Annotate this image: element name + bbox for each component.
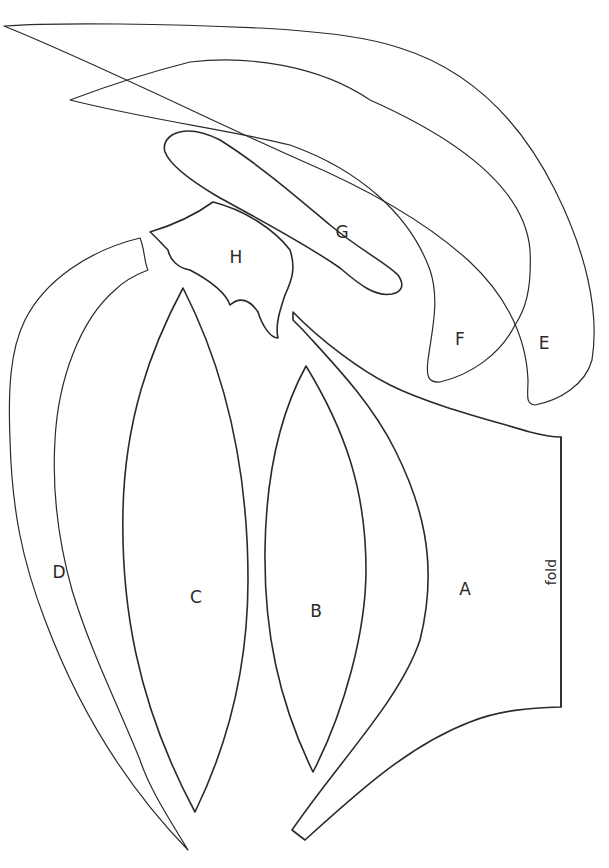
- pattern-piece-h: [150, 202, 293, 338]
- pattern-piece-e: [4, 24, 594, 405]
- piece-label-h: H: [230, 247, 243, 267]
- piece-d-outline: [9, 238, 188, 850]
- piece-g-outline: [164, 131, 401, 295]
- piece-h-outline: [150, 202, 293, 338]
- pattern-piece-b: [265, 366, 366, 772]
- piece-label-e: E: [539, 333, 550, 353]
- pattern-piece-d: [9, 238, 188, 850]
- pattern-piece-c: [123, 288, 248, 812]
- piece-label-f: F: [455, 329, 465, 349]
- piece-a-outline: [292, 312, 561, 840]
- piece-label-g: G: [335, 222, 348, 242]
- sewing-pattern-sheet: A B C D E F G H fold: [0, 0, 609, 868]
- piece-label-a: A: [459, 579, 471, 599]
- piece-b-outline: [265, 366, 366, 772]
- piece-c-outline: [123, 288, 248, 812]
- piece-label-d: D: [52, 562, 65, 582]
- pattern-piece-g: [164, 131, 401, 295]
- piece-e-outline: [4, 24, 594, 405]
- piece-label-c: C: [190, 587, 202, 607]
- piece-label-b: B: [310, 601, 322, 621]
- pattern-piece-a: [292, 312, 561, 840]
- fold-label: fold: [543, 559, 559, 585]
